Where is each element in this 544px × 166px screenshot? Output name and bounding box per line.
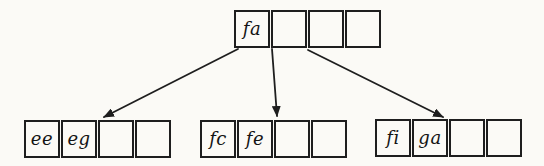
root-cell-1: fa <box>234 10 270 48</box>
middle-child-node: fc fe <box>200 120 347 158</box>
middle-child-cell-4 <box>311 120 347 158</box>
right-child-cell-2: ga <box>412 119 448 157</box>
right-child-cell-1: fi <box>375 119 411 157</box>
right-child-cell-4 <box>486 119 522 157</box>
left-child-cell-1: ee <box>24 120 60 158</box>
right-child-cell-3 <box>449 119 485 157</box>
left-child-node: ee eg <box>24 120 171 158</box>
edge-root-to-left-child <box>104 49 238 117</box>
left-child-cell-2: eg <box>61 120 97 158</box>
root-cell-3 <box>308 10 344 48</box>
root-node: fa <box>234 10 381 48</box>
root-cell-4 <box>345 10 381 48</box>
left-child-cell-3 <box>98 120 134 158</box>
middle-child-cell-3 <box>274 120 310 158</box>
edge-root-to-middle-child <box>272 49 277 116</box>
right-child-node: fi ga <box>375 119 522 157</box>
edge-root-to-right-child <box>308 50 443 117</box>
middle-child-cell-2: fe <box>237 120 273 158</box>
middle-child-cell-1: fc <box>200 120 236 158</box>
root-cell-2 <box>271 10 307 48</box>
btree-diagram: fa ee eg fc fe fi ga <box>0 0 544 166</box>
left-child-cell-4 <box>135 120 171 158</box>
